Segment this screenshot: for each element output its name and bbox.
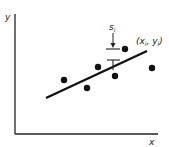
data-point [95, 64, 101, 70]
error-label: si [109, 22, 116, 33]
y-axis-label: y [4, 12, 11, 22]
x-axis-label: x [148, 137, 155, 147]
regression-diagram: y x si (xi, yi) [0, 0, 169, 147]
data-point [61, 77, 67, 83]
point-label: (xi, yi) [136, 36, 163, 47]
data-point [84, 85, 90, 91]
data-point [122, 46, 128, 52]
arrow-down-icon [111, 43, 116, 48]
data-point [149, 65, 155, 71]
data-point [112, 73, 118, 79]
fit-line [46, 51, 147, 98]
